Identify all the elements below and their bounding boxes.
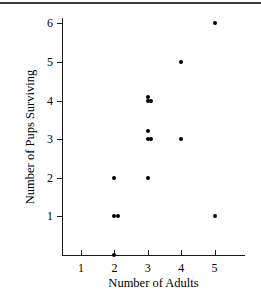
data-point <box>149 99 153 103</box>
x-axis-label: Number of Adults <box>62 276 245 290</box>
y-axis-line <box>62 18 63 256</box>
scatter-plot-figure: 123456 12345 Number of Adults Number of … <box>0 0 261 304</box>
y-axis-label: Number of Pups Surviving <box>23 47 37 227</box>
data-point <box>116 214 120 218</box>
x-axis-tick-label: 3 <box>138 262 158 274</box>
data-point <box>112 253 116 257</box>
data-point <box>112 176 116 180</box>
data-point <box>213 214 217 218</box>
data-point <box>179 137 183 141</box>
plot-area: 123456 12345 Number of Adults Number of … <box>0 0 261 304</box>
x-axis-tick-label: 4 <box>171 262 191 274</box>
data-point <box>213 21 217 25</box>
y-axis-tick-label: 6 <box>33 17 53 29</box>
x-axis-tick-label: 5 <box>205 262 225 274</box>
y-axis-tick <box>57 101 63 102</box>
y-axis-tick <box>57 216 63 217</box>
y-axis-tick <box>57 178 63 179</box>
x-axis-tick <box>215 250 216 256</box>
x-axis-tick <box>148 250 149 256</box>
x-axis-tick <box>181 250 182 256</box>
x-axis-tick-label: 1 <box>71 262 91 274</box>
x-axis-tick-label: 2 <box>104 262 124 274</box>
data-point <box>146 176 150 180</box>
y-axis-tick <box>57 139 63 140</box>
data-point <box>149 137 153 141</box>
data-point <box>146 129 150 133</box>
x-axis-tick <box>81 250 82 256</box>
y-axis-tick <box>57 23 63 24</box>
data-point <box>179 60 183 64</box>
x-axis-line <box>62 255 245 256</box>
y-axis-tick <box>57 62 63 63</box>
data-point <box>146 95 150 99</box>
